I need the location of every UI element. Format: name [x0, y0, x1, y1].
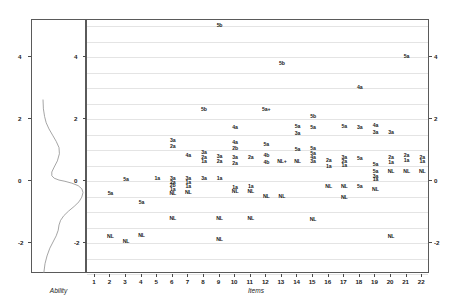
x-tick-mark	[312, 274, 313, 277]
data-point-label: 2a	[232, 161, 237, 166]
y-tick-label: -2	[74, 239, 79, 246]
data-point-label: NL	[232, 190, 239, 195]
data-point-label: 1a	[388, 161, 393, 166]
data-point-label: 1a	[419, 159, 424, 164]
x-tick-mark	[250, 274, 251, 277]
data-point-label: NL	[169, 216, 176, 221]
x-tick-mark	[125, 274, 126, 277]
gridline	[87, 259, 428, 260]
data-point-label: 5b	[279, 61, 285, 66]
x-tick-mark	[187, 274, 188, 277]
data-point-label: 5a	[264, 142, 269, 147]
data-point-label: 5a	[310, 126, 315, 131]
data-point-label: 5a	[357, 156, 362, 161]
data-point-label: 1a	[217, 176, 222, 181]
data-point-label: 2b	[232, 146, 238, 151]
gridline	[87, 243, 428, 244]
x-tick-label: 13	[278, 278, 285, 285]
data-point-label: NL	[169, 191, 176, 196]
x-tick-mark	[141, 274, 142, 277]
y-tick-label: 4	[18, 53, 21, 60]
x-tick-mark	[203, 274, 204, 277]
figure-root: 420-2 Ability 5b5b5a4a5b5a+5b4a5a3a5a5a3…	[0, 0, 460, 304]
y-tick-mark	[28, 242, 31, 243]
y-tick-mark	[83, 180, 86, 181]
x-tick-label: 8	[201, 278, 204, 285]
data-point-label: NL	[247, 216, 254, 221]
data-point-label: NL	[138, 233, 145, 238]
x-tick-label: 11	[247, 278, 253, 285]
x-tick-mark	[296, 274, 297, 277]
x-tick-mark	[219, 274, 220, 277]
x-tick-mark	[328, 274, 329, 277]
data-point-label: 1a	[342, 163, 347, 168]
x-tick-label: 15	[309, 278, 316, 285]
data-point-label: NL	[107, 234, 114, 239]
data-point-label: NL	[279, 195, 286, 200]
data-point-label: 5b	[310, 114, 316, 119]
data-point-label: 1a	[326, 165, 331, 170]
data-point-label: 3a	[201, 176, 206, 181]
gridline	[87, 228, 428, 229]
data-point-label: NL	[341, 184, 348, 189]
y-tick-mark	[83, 56, 86, 57]
x-tick-mark	[265, 274, 266, 277]
gridline	[87, 57, 428, 58]
data-point-label: 4a	[373, 123, 378, 128]
data-point-label: 2a	[217, 159, 222, 164]
data-point-label: 3a	[388, 130, 393, 135]
data-point-label: NL	[419, 169, 426, 174]
x-tick-mark	[374, 274, 375, 277]
gridline	[87, 274, 428, 275]
data-point-label: 4a	[186, 154, 191, 159]
x-tick-mark	[109, 274, 110, 277]
data-point-label: 3a	[357, 126, 362, 131]
x-tick-label: 12	[262, 278, 269, 285]
y-tick-mark	[83, 118, 86, 119]
data-point-label: 5a	[404, 55, 409, 60]
data-point-label: NL	[403, 169, 410, 174]
ability-axis-title: Ability	[50, 287, 67, 294]
data-point-label: NL	[123, 240, 130, 245]
y-tick-label: 0	[74, 177, 77, 184]
x-tick-mark	[406, 274, 407, 277]
items-panel: 5b5b5a4a5b5a+5b4a5a3a5a5a3a4a3a3a3a2a4a2…	[86, 19, 429, 273]
y-tick-mark	[429, 56, 432, 57]
x-tick-label: 20	[387, 278, 394, 285]
y-tick-mark	[28, 118, 31, 119]
x-tick-mark	[343, 274, 344, 277]
x-tick-label: 19	[371, 278, 378, 285]
items-axis-title: Items	[248, 287, 264, 294]
x-tick-label: 3	[123, 278, 126, 285]
x-tick-label: 6	[170, 278, 173, 285]
x-tick-label: 9	[217, 278, 220, 285]
x-tick-mark	[156, 274, 157, 277]
x-tick-label: 1	[92, 278, 95, 285]
x-tick-label: 14	[293, 278, 300, 285]
y-tick-label: 2	[434, 115, 437, 122]
x-tick-label: 18	[355, 278, 362, 285]
data-point-label: 2a	[170, 144, 175, 149]
y-tick-label: 0	[434, 177, 437, 184]
x-tick-mark	[234, 274, 235, 277]
data-point-label: 5a	[373, 162, 378, 167]
data-point-label: 4b	[263, 161, 269, 166]
y-tick-label: 2	[74, 115, 77, 122]
y-tick-mark	[429, 242, 432, 243]
x-tick-label: 16	[324, 278, 331, 285]
x-tick-mark	[421, 274, 422, 277]
x-tick-label: 21	[402, 278, 409, 285]
x-tick-label: 5	[154, 278, 157, 285]
data-point-label: 5a	[139, 201, 144, 206]
x-tick-mark	[172, 274, 173, 277]
x-tick-mark	[281, 274, 282, 277]
data-point-label: NL	[388, 169, 395, 174]
data-point-label: NL	[216, 237, 223, 242]
x-tick-label: 10	[231, 278, 238, 285]
data-point-label: 1a	[186, 184, 191, 189]
data-point-label: 5b	[201, 107, 207, 112]
data-point-label: 5a	[295, 125, 300, 130]
x-tick-mark	[359, 274, 360, 277]
x-tick-label: 4	[139, 278, 142, 285]
data-point-label: NL	[372, 188, 379, 193]
